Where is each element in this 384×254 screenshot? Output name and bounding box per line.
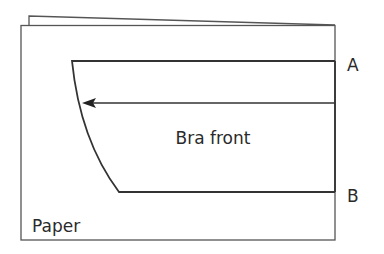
back-paper-sheet	[29, 16, 335, 26]
pattern-diagram: Bra front Paper A B	[0, 0, 384, 254]
pattern-label: Bra front	[176, 128, 251, 148]
paper-label: Paper	[32, 216, 80, 236]
point-b-label: B	[347, 186, 359, 206]
point-a-label: A	[347, 55, 359, 75]
